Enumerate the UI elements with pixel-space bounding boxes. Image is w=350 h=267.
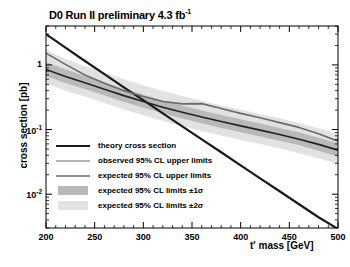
x-tick-label-1: 250 [79, 232, 111, 242]
legend-item-2: expected 95% CL upper limits [56, 168, 212, 183]
figure: D0 Run II preliminary 4.3 fb-1 cross sec… [0, 0, 350, 267]
legend-item-3: expected 95% CL limits ±1σ [56, 183, 212, 198]
legend-patch-swatch-4 [58, 201, 88, 210]
y-tick-exponent-2: -2 [36, 188, 42, 195]
x-tick-label-0: 200 [30, 232, 62, 242]
plot-title: D0 Run II preliminary 4.3 fb-1 [49, 8, 191, 21]
legend-key-4 [56, 200, 90, 211]
plot-title-exponent: -1 [185, 8, 191, 15]
y-tick-label-1: 10-1 [14, 124, 42, 136]
x-tick-label-5: 450 [273, 232, 305, 242]
legend-label-3: expected 95% CL limits ±1σ [98, 186, 203, 195]
y-tick-label-2: 10-2 [14, 188, 42, 200]
legend-label-1: observed 95% CL upper limits [98, 156, 212, 165]
chart-legend: theory cross sectionobserved 95% CL uppe… [56, 138, 212, 213]
legend-line-swatch-0 [56, 145, 90, 147]
x-tick-label-3: 350 [176, 232, 208, 242]
legend-label-4: expected 95% CL limits ±2σ [98, 201, 203, 210]
legend-key-3 [56, 185, 90, 196]
legend-item-0: theory cross section [56, 138, 212, 153]
legend-patch-swatch-3 [58, 186, 88, 195]
legend-key-1 [56, 155, 90, 166]
legend-item-4: expected 95% CL limits ±2σ [56, 198, 212, 213]
x-tick-label-4: 400 [225, 232, 257, 242]
x-tick-label-6: 500 [322, 232, 350, 242]
legend-item-1: observed 95% CL upper limits [56, 153, 212, 168]
legend-line-swatch-1 [56, 160, 90, 161]
legend-label-0: theory cross section [98, 141, 176, 150]
legend-line-swatch-2 [56, 175, 90, 176]
plot-title-text: D0 Run II preliminary 4.3 fb [49, 9, 185, 21]
plot-canvas [0, 0, 350, 267]
legend-label-2: expected 95% CL upper limits [98, 171, 211, 180]
x-tick-label-2: 300 [127, 232, 159, 242]
y-tick-exponent-1: -1 [36, 124, 42, 131]
legend-key-2 [56, 170, 90, 181]
legend-key-0 [56, 140, 90, 151]
y-tick-label-0: 1 [14, 59, 42, 69]
